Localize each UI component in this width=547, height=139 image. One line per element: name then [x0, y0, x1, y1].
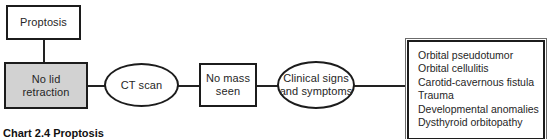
list-item: Developmental anomalies [418, 103, 543, 116]
list-item: Dysthyroid orbitopathy [418, 116, 543, 129]
connector-no-lid-retraction-to-ct-scan [87, 85, 105, 87]
list-item: Carotid-cavernous fistula [418, 76, 543, 89]
list-item: Orbital cellulitis [418, 62, 543, 75]
list-item: Orbital pseudotumor [418, 49, 543, 62]
connector-ct-scan-to-no-mass-seen [178, 85, 200, 87]
node-ct-scan: CT scan [104, 63, 179, 107]
node-no-mass-seen-label: No mass seen [206, 72, 250, 98]
node-ct-scan-label: CT scan [121, 79, 162, 92]
diagnoses-list-inner: Orbital pseudotumor Orbital cellulitis C… [407, 40, 545, 139]
node-no-mass-seen: No mass seen [199, 63, 257, 107]
figure-caption: Chart 2.4 Proptosis [3, 127, 104, 139]
diagnoses-list-box: Orbital pseudotumor Orbital cellulitis C… [405, 38, 547, 139]
connector-proptosis-to-no-lid-retraction [43, 39, 45, 63]
node-clinical-signs-and-symptoms-label: Clinical signs and symptoms [280, 72, 353, 98]
connector-no-mass-seen-to-clinical-signs [256, 85, 278, 87]
node-no-lid-retraction: No lid retraction [4, 62, 88, 109]
connector-clinical-signs-to-diagnoses [354, 85, 406, 87]
node-clinical-signs-and-symptoms: Clinical signs and symptoms [277, 61, 355, 109]
node-proptosis-label: Proptosis [20, 16, 67, 29]
node-proptosis: Proptosis [6, 5, 81, 40]
flowchart-canvas: Proptosis No lid retraction CT scan No m… [0, 0, 547, 139]
node-no-lid-retraction-label: No lid retraction [23, 73, 70, 99]
list-item: Trauma [418, 89, 543, 102]
